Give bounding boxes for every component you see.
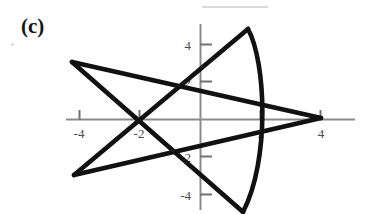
figure-panel: (c) -4 -2 2 4 4 2 [0,0,376,214]
x-tick-labels: -4 -2 2 4 [74,126,325,141]
star-edge-upperleft-to-bottom [72,62,243,212]
plot-canvas: -4 -2 2 4 4 2 -2 -4 [0,0,376,214]
x-tick-label-4: 4 [318,126,325,141]
y-tick-label-minus4: -4 [180,188,191,203]
x-tick-label-minus2: -2 [134,126,145,141]
y-tick-label-4: 4 [185,38,192,53]
x-tick-label-minus4: -4 [74,126,85,141]
